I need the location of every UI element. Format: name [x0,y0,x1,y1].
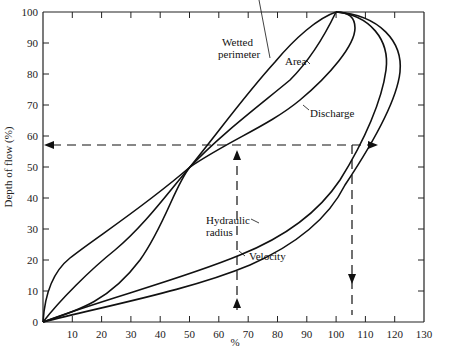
arrow-right-icon [368,141,378,149]
y-tick-label: 50 [27,161,39,173]
x-tick-label: 130 [416,328,433,340]
chart-canvas: 10 20 30 40 50 60 70 80 90 100 110 120 1… [0,0,458,348]
curve-hydraulic-radius [43,12,387,322]
x-axis-title: % [230,336,239,348]
label-velocity: Velocity [249,250,286,262]
label-wetted-perimeter-line2: perimeter [218,48,260,60]
label-discharge: Discharge [310,107,355,119]
y-tick-label: 20 [27,254,39,266]
y-tick-label: 10 [27,285,39,297]
y-tick-label: 0 [33,316,39,328]
label-area: Area [285,55,306,67]
y-axis-title: Depth of flow (%) [2,126,15,207]
label-hydraulic-radius-line2: radius [206,226,233,238]
x-tick-label: 80 [272,328,284,340]
y-tick-label: 40 [27,192,39,204]
y-tick-label: 90 [27,37,39,49]
x-tick-label: 60 [213,328,225,340]
x-tick-label: 30 [125,328,137,340]
x-tick-label: 100 [328,328,345,340]
x-tick-label: 110 [357,328,374,340]
arrow-up-icon [233,150,241,160]
arrow-left-icon [44,141,54,149]
label-wetted-perimeter-line1: Wetted [222,36,253,48]
x-tick-label: 10 [67,328,79,340]
y-tick-label: 60 [27,130,39,142]
x-tick-label: 90 [301,328,313,340]
label-hydraulic-radius-line1: Hydraulic [206,214,250,226]
y-ticks [43,43,424,291]
x-tick-label: 50 [184,328,196,340]
y-tick-label: 30 [27,223,39,235]
y-tick-label: 70 [27,99,39,111]
x-tick-label: 40 [155,328,167,340]
x-tick-label: 20 [96,328,108,340]
arrow-up-bottom-icon [233,298,241,308]
x-tick-label: 120 [386,328,403,340]
y-tick-labels: 0 10 20 30 40 50 60 70 80 90 100 [22,6,39,328]
y-tick-label: 80 [27,68,39,80]
y-tick-label: 100 [22,6,39,18]
x-tick-labels: 10 20 30 40 50 60 70 80 90 100 110 120 1… [67,328,433,340]
arrow-down-icon [348,274,356,284]
x-tick-label: 70 [243,328,255,340]
